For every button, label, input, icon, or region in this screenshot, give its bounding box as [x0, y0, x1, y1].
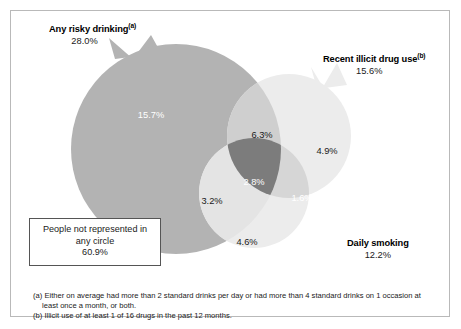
footnote-marker-b: (b) — [417, 52, 425, 59]
not-represented-line-1: People not represented in — [34, 224, 156, 236]
region-label-risky-only: 15.7% — [138, 110, 164, 120]
set-label-recent-illicit-drug-use: Recent illicit drug use(b) 15.6% — [323, 54, 425, 77]
venn-figure-panel: 15.7% 6.3% 4.9% 2.8% 3.2% 1.6% 4.6% Any … — [10, 10, 450, 317]
region-label-smoking-only: 4.6% — [236, 237, 257, 247]
region-label-illicit-only: 4.9% — [316, 146, 337, 156]
set-label-illicit-text: Recent illicit drug use(b) — [323, 54, 425, 65]
region-label-all-three: 2.8% — [243, 177, 264, 187]
not-represented-box: People not represented in any circle 60.… — [29, 218, 161, 266]
footnote-marker-a: (a) — [128, 22, 136, 29]
set-value-risky: 28.0% — [49, 35, 136, 47]
region-label-risky-illicit: 6.3% — [251, 130, 272, 140]
footnote-b: (b) Illicit use of at least 1 of 16 drug… — [33, 311, 433, 321]
set-label-risky-text: Any risky drinking(a) — [49, 24, 136, 35]
set-label-daily-smoking: Daily smoking 12.2% — [347, 238, 409, 261]
footnote-a: (a) Either on average had more than 2 st… — [33, 291, 433, 311]
region-label-risky-smoking: 3.2% — [201, 196, 222, 206]
region-label-illicit-smoking: 1.6% — [291, 193, 312, 203]
set-value-smoking: 12.2% — [347, 249, 409, 261]
set-value-illicit: 15.6% — [323, 65, 425, 77]
not-represented-line-2: any circle — [34, 236, 156, 248]
footnotes-block: (a) Either on average had more than 2 st… — [33, 291, 433, 322]
set-label-any-risky-drinking: Any risky drinking(a) 28.0% — [49, 24, 136, 47]
not-represented-value: 60.9% — [34, 247, 156, 259]
set-label-smoking-text: Daily smoking — [347, 238, 409, 249]
